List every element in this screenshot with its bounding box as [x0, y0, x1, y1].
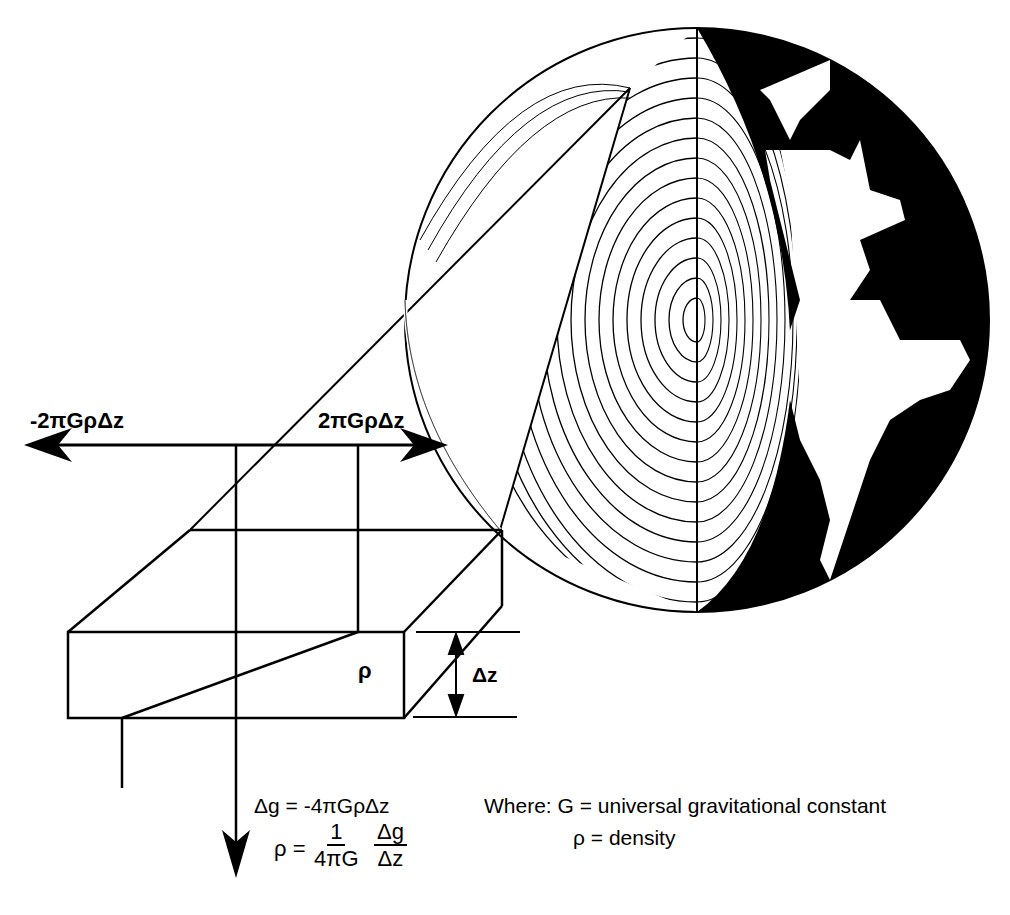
delta-g-equation: Δg = -4πGρΔz — [254, 794, 390, 818]
diagram-drawing — [0, 0, 1010, 915]
rho-prefix: ρ = — [274, 836, 305, 862]
thickness-label: Δz — [472, 663, 498, 687]
left-arrow-label: -2πGρΔz — [30, 408, 124, 434]
gravity-slab-diagram: -2πGρΔz 2πGρΔz ρ Δz Δg = -4πGρΔz ρ = 1 4… — [0, 0, 1010, 915]
fraction-dg-over-dz: Δg Δz — [374, 820, 407, 872]
earth-globe-icon — [190, 28, 989, 612]
vertical-down-arrow-icon — [222, 445, 250, 878]
density-slab — [68, 445, 502, 788]
fraction-one-over-4piG: 1 4πG — [314, 820, 359, 872]
right-arrow-label: 2πGρΔz — [318, 408, 405, 434]
legend-rho-definition: ρ = density — [573, 826, 675, 850]
slab-density-label: ρ — [358, 658, 372, 684]
legend-g-definition: Where: G = universal gravitational const… — [484, 794, 886, 818]
